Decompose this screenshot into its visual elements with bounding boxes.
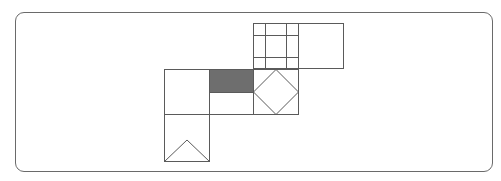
blank-square-top-right [299,24,344,69]
diamond-shape [254,70,299,115]
triangle-shape [165,140,210,162]
grid-square [254,24,299,69]
half-shaded-square [210,70,254,115]
triangle-square [165,115,210,162]
cube-net-diagram [0,0,501,181]
diamond-square [254,70,299,115]
blank-square-left [165,70,210,115]
